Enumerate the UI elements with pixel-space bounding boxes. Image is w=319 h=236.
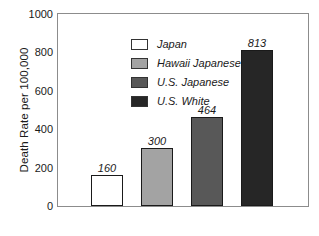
- legend-swatch-icon: [131, 96, 148, 107]
- bar-value-label: 813: [241, 37, 273, 49]
- legend-item: Hawaii Japanese: [131, 54, 241, 72]
- legend-swatch-icon: [131, 77, 148, 88]
- legend-item: U.S. Japanese: [131, 73, 241, 91]
- legend-item-label: U.S. White: [157, 95, 210, 107]
- bar-japan: [91, 175, 123, 206]
- y-axis-tick-label: 0: [7, 200, 53, 212]
- y-axis-tick-label: 400: [7, 123, 53, 135]
- bar-value-label: 160: [91, 162, 123, 174]
- y-axis-tick-label: 200: [7, 162, 53, 174]
- bar-u-s-japanese: [191, 117, 223, 206]
- legend-item: U.S. White: [131, 92, 241, 110]
- y-axis-tick-label: 600: [7, 85, 53, 97]
- legend-item-label: Japan: [157, 38, 187, 50]
- legend-item: Japan: [131, 35, 241, 53]
- y-axis-tick-labels: 10008006004002000: [5, 0, 53, 236]
- bar-chart-figure: Death Rate per 100,000 10008006004002000…: [0, 0, 319, 236]
- bar-value-label: 300: [141, 135, 173, 147]
- legend-swatch-icon: [131, 58, 148, 69]
- bar-u-s-white: [241, 50, 273, 206]
- legend-item-label: Hawaii Japanese: [157, 57, 241, 69]
- y-axis-tick-label: 800: [7, 46, 53, 58]
- chart-legend: JapanHawaii JapaneseU.S. JapaneseU.S. Wh…: [131, 35, 241, 111]
- legend-swatch-icon: [131, 39, 148, 50]
- legend-item-label: U.S. Japanese: [157, 76, 229, 88]
- plot-area: 160300464813 JapanHawaii JapaneseU.S. Ja…: [57, 13, 309, 207]
- y-axis-tick-label: 1000: [7, 8, 53, 20]
- bar-hawaii-japanese: [141, 148, 173, 206]
